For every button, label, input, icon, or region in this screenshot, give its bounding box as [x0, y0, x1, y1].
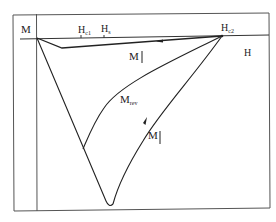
hs-label: Hs: [101, 23, 111, 35]
hc2-label: Hc2: [221, 22, 234, 34]
h-axis-label: H: [244, 47, 251, 58]
m-up-label: M: [148, 129, 158, 141]
diagram-frame: [13, 13, 270, 211]
hc2-point: [221, 35, 224, 38]
m-up-arrow-icon: [143, 117, 147, 125]
m-axis: [37, 14, 38, 211]
h-axis: [20, 35, 269, 39]
m-axis-label: M: [21, 23, 31, 35]
virgin-curve: [37, 38, 113, 205]
magnetization-diagram: M H Hc1 Hs Hc2 M Mrev M: [0, 0, 276, 222]
m-rev-label: Mrev: [120, 93, 137, 106]
hc1-label: Hc1: [78, 24, 91, 36]
m-down-label: M: [129, 50, 139, 62]
